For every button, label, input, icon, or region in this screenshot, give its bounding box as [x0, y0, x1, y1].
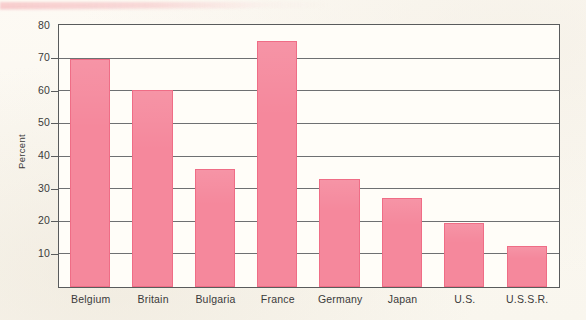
- y-axis-tick: [51, 221, 58, 222]
- plot-area: [58, 24, 560, 288]
- x-axis-label: U.S.S.R.: [496, 293, 558, 305]
- x-axis-label: France: [247, 293, 309, 305]
- y-axis-label: 30: [20, 182, 50, 194]
- bar: [132, 90, 172, 287]
- y-axis-label: 10: [20, 247, 50, 259]
- y-axis-label: 40: [20, 149, 50, 161]
- x-axis-label: Bulgaria: [184, 293, 246, 305]
- plot-inner: [59, 25, 559, 287]
- x-axis-label: Germany: [309, 293, 371, 305]
- bar: [444, 223, 484, 287]
- y-axis-label: 60: [20, 84, 50, 96]
- x-axis-label: Japan: [371, 293, 433, 305]
- x-axis-label: Belgium: [60, 293, 122, 305]
- bar: [195, 169, 235, 287]
- y-axis-tick: [51, 91, 58, 92]
- x-axis-label: U.S.: [434, 293, 496, 305]
- scanned-page: Percent 1020304050607080 BelgiumBritainB…: [0, 0, 586, 320]
- y-axis-tick: [51, 189, 58, 190]
- bar: [319, 179, 359, 287]
- y-axis-tick: [51, 254, 58, 255]
- bar: [70, 59, 110, 287]
- bar: [382, 198, 422, 287]
- bar: [257, 41, 297, 287]
- x-axis-label: Britain: [122, 293, 184, 305]
- y-axis-tick: [51, 123, 58, 124]
- bar: [507, 246, 547, 287]
- y-axis-label: 80: [20, 19, 50, 31]
- y-axis-label: 50: [20, 116, 50, 128]
- bar-chart: Percent 1020304050607080 BelgiumBritainB…: [0, 0, 586, 320]
- y-axis-label: 20: [20, 214, 50, 226]
- y-axis-tick: [51, 58, 58, 59]
- y-axis-label: 70: [20, 51, 50, 63]
- gridline: [59, 58, 559, 59]
- y-axis-tick: [51, 156, 58, 157]
